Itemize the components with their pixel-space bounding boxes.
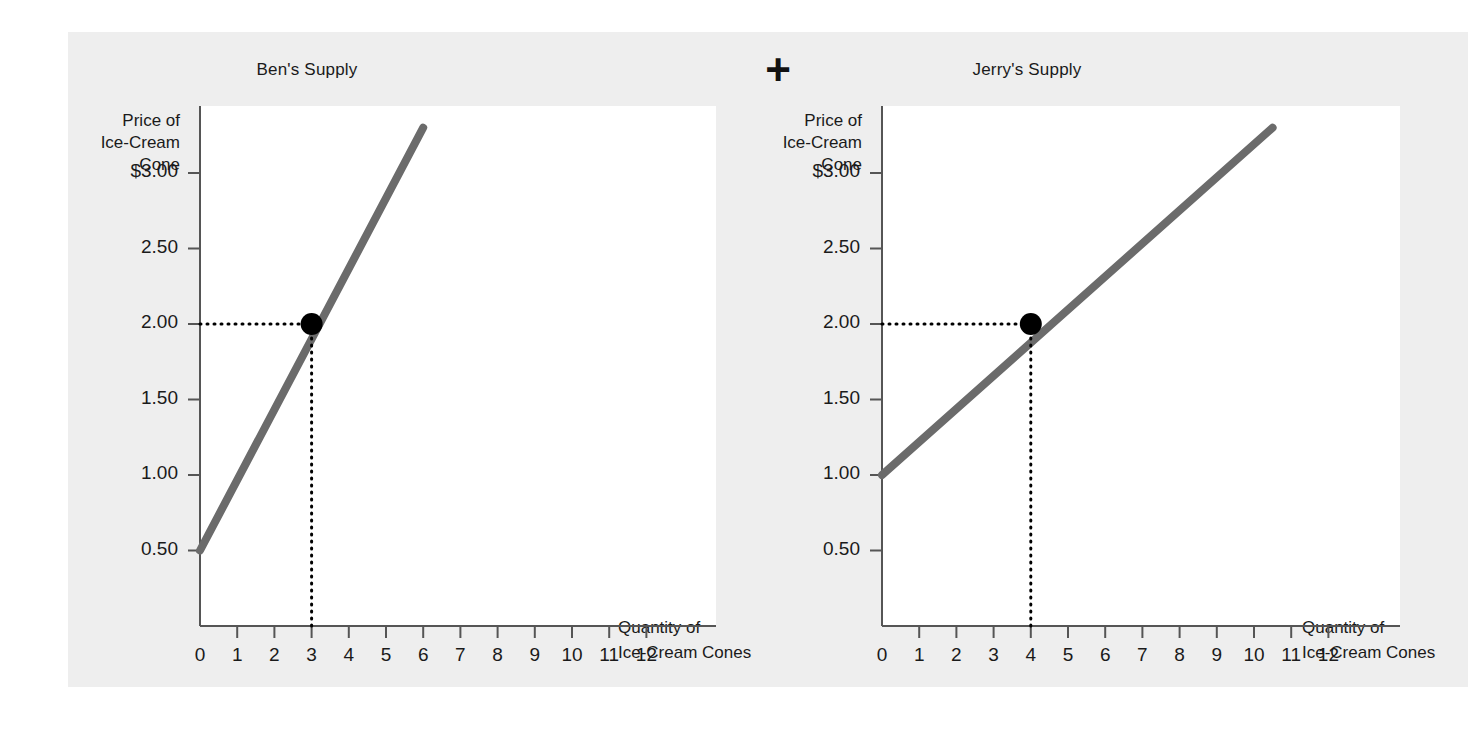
y-tick-label-ben-5: $3.00 [78, 160, 178, 182]
y-tick-label-ben-2: 1.50 [78, 387, 178, 409]
x-tick-label-ben-6: 6 [410, 644, 436, 666]
x-tick-label-jerry-0: 0 [869, 644, 895, 666]
x-tick-label-ben-12: 12 [633, 644, 659, 666]
x-tick-label-ben-4: 4 [336, 644, 362, 666]
y-tick-label-jerry-3: 2.00 [760, 311, 860, 333]
x-tick-label-ben-10: 10 [559, 644, 585, 666]
y-tick-label-ben-0: 0.50 [78, 538, 178, 560]
x-tick-label-jerry-2: 2 [943, 644, 969, 666]
axes-and-curve-jerry [682, 0, 1416, 729]
x-tick-label-jerry-7: 7 [1129, 644, 1155, 666]
x-tick-label-ben-0: 0 [187, 644, 213, 666]
y-tick-label-ben-4: 2.50 [78, 236, 178, 258]
chart-jerry-supply: Jerry's Supply Price of Ice-Cream Cone Q… [682, 0, 1416, 729]
x-tick-label-ben-8: 8 [485, 644, 511, 666]
x-tick-label-jerry-9: 9 [1204, 644, 1230, 666]
y-tick-label-jerry-1: 1.00 [760, 462, 860, 484]
x-tick-label-jerry-5: 5 [1055, 644, 1081, 666]
x-tick-label-jerry-4: 4 [1018, 644, 1044, 666]
x-tick-label-ben-1: 1 [224, 644, 250, 666]
x-tick-label-jerry-11: 11 [1278, 644, 1304, 666]
data-point-marker-ben [301, 313, 323, 335]
supply-curve-jerry [882, 128, 1273, 475]
x-tick-label-jerry-6: 6 [1092, 644, 1118, 666]
y-tick-label-jerry-4: 2.50 [760, 236, 860, 258]
y-tick-label-ben-1: 1.00 [78, 462, 178, 484]
x-tick-label-ben-9: 9 [522, 644, 548, 666]
x-tick-label-jerry-3: 3 [981, 644, 1007, 666]
x-tick-label-jerry-12: 12 [1315, 644, 1341, 666]
x-tick-label-ben-5: 5 [373, 644, 399, 666]
chart-ben-supply: Ben's Supply Price of Ice-Cream Cone Qua… [0, 0, 734, 729]
x-tick-label-ben-7: 7 [447, 644, 473, 666]
x-tick-label-ben-11: 11 [596, 644, 622, 666]
x-tick-label-ben-2: 2 [261, 644, 287, 666]
x-tick-label-ben-3: 3 [299, 644, 325, 666]
x-tick-label-jerry-10: 10 [1241, 644, 1267, 666]
axes-and-curve-ben [0, 0, 734, 729]
y-tick-label-jerry-2: 1.50 [760, 387, 860, 409]
x-tick-label-jerry-8: 8 [1167, 644, 1193, 666]
y-tick-label-jerry-0: 0.50 [760, 538, 860, 560]
x-tick-label-jerry-1: 1 [906, 644, 932, 666]
y-tick-label-jerry-5: $3.00 [760, 160, 860, 182]
supply-curves-figure: Ben's Supply Price of Ice-Cream Cone Qua… [0, 0, 1468, 729]
y-tick-label-ben-3: 2.00 [78, 311, 178, 333]
data-point-marker-jerry [1020, 313, 1042, 335]
